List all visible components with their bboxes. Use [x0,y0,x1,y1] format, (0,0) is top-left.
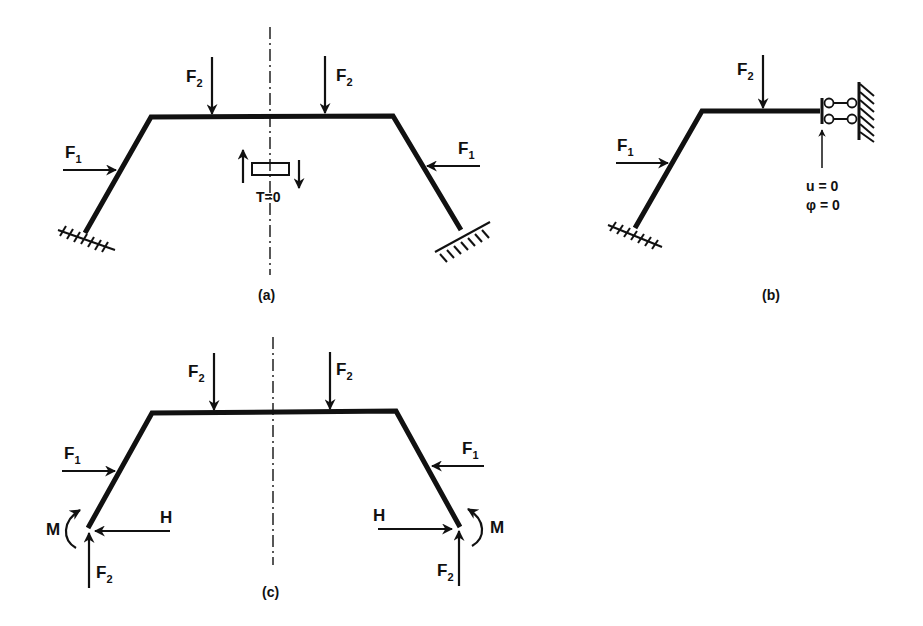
structural-frame-figure: F2 F2 F1 F1 T=0 (a) [0,0,923,626]
label-f2-right-a: F2 [336,66,353,88]
label-f2-right-c: F2 [336,360,353,382]
label-f2-b: F2 [737,60,754,82]
label-f1-left-c: F1 [64,444,81,466]
panel-c: F2 F2 F1 F1 H F2 M H F2 M (c) [46,337,504,600]
sliding-support-b [822,82,874,142]
caption-b: (b) [762,287,780,303]
frame-c [88,411,460,528]
caption-c: (c) [262,584,279,600]
caption-a: (a) [258,287,275,303]
label-f1-left-a: F1 [65,143,82,165]
frame-b [635,111,820,228]
label-m-left-c: M [46,520,60,539]
label-f2-base-left-c: F2 [96,563,113,585]
label-shear-zero-a: T=0 [256,189,281,205]
panel-b: u = 0 φ = 0 F2 F1 (b) [608,55,874,303]
label-f2-left-a: F2 [186,67,203,89]
moment-left-arrow-c [66,510,80,548]
condition-phi-b: φ = 0 [806,197,840,213]
shear-element-a [243,150,299,188]
moment-right-arrow-c [468,509,482,546]
label-f1-right-a: F1 [458,139,475,161]
label-f2-base-right-c: F2 [437,561,454,583]
label-f1-b: F1 [617,136,634,158]
label-h-left-c: H [160,508,172,527]
label-m-right-c: M [490,518,504,537]
panel-a: F2 F2 F1 F1 T=0 (a) [58,27,490,303]
label-f1-right-c: F1 [462,439,479,461]
condition-u-b: u = 0 [806,178,839,194]
label-f2-left-c: F2 [188,362,205,384]
label-h-right-c: H [373,506,385,525]
